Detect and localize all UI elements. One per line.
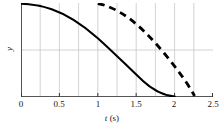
y-axis-label: y [2,42,16,56]
x-axis-label: t (s) [0,113,224,124]
x-tick-label-2-5: 2.5 [201,99,224,110]
x-tick-label-1: 1 [86,99,110,110]
x-tick-label-0-5: 0.5 [47,99,71,110]
plot-area [21,3,213,97]
x-tick-label-0: 0 [9,99,33,110]
x-axis-label-unit: (s) [110,113,120,123]
x-axis-label-variable: t [105,113,108,123]
x-tick-label-1-5: 1.5 [124,99,148,110]
chart-figure: y [0,0,224,131]
plot-svg [21,3,213,97]
x-tick-label-2: 2 [162,99,186,110]
